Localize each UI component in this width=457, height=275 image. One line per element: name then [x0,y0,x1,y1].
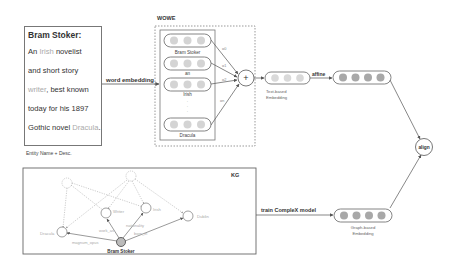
kg-node-label-writer: Writer [113,209,125,214]
text-based-embedding [265,72,310,84]
kg-rel-born-in: born_in [134,231,147,236]
kg-box [23,168,256,254]
sum-symbol: + [243,73,248,83]
projected-text-embedding [333,71,391,84]
edge-label-affine: affine [312,71,326,77]
graph-based-embedding [334,209,392,222]
kg-node-writer [101,208,111,218]
weight-alpha-1: α1 [222,64,226,68]
edge-label-word-embedding: word embedding [105,77,154,83]
kg-node-label-irish: Irish [153,207,162,212]
kg-node-dracula [57,227,67,237]
kg-rel-magnum-opus: magnum_opus [72,240,98,245]
kg-node-irish [141,203,151,213]
edge-label-train-complex: train CompleX model [261,207,316,213]
word-vector-irish [164,78,211,91]
weight-alpha-n: αn [220,99,224,103]
word-vector-bram-stoker [164,34,211,47]
kg-rel-nationality: nationality [126,223,144,228]
kg-node-dublin [183,211,193,221]
align-label: align [418,145,429,150]
kg-context-node-2 [126,171,136,181]
word-label-dracula: Dracula [180,133,196,138]
text-embedding-caption-1: Text-based [266,89,287,94]
kg-node-label-dublin: Dublin [197,214,210,219]
text-embedding-caption-2: Embedding [266,95,288,100]
weight-alpha-2: α2 [222,78,226,82]
word-label-an: an [185,71,191,76]
graph-embedding-caption-2: Embedding [352,231,374,236]
word-label-irish: Irish [183,92,192,97]
ellipsis-dot: · [187,109,188,114]
graph-embedding-caption-1: Graph-based [351,225,376,230]
kg-context-node-1 [62,178,72,188]
diagram-canvas: Dracula Writer Irish Dublin magnum_opus … [0,0,457,275]
kg-node-bram-stoker [117,238,126,247]
kg-center-node-label: Bram Stoker [107,249,135,254]
weight-alpha-0: α0 [222,47,226,51]
kg-title: KG [231,172,239,178]
kg-node-label-dracula: Dracula [40,231,55,236]
word-vector-dracula [164,118,211,131]
kg-rel-work-as: work_as [99,228,114,233]
word-vector-an [164,57,211,70]
word-label-bram-stoker: Bram Stoker [175,50,201,55]
